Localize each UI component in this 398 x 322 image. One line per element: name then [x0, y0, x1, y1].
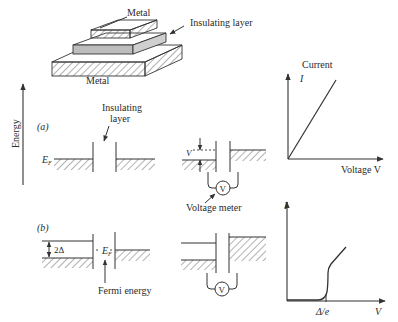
gap-label: 2Δ [54, 245, 65, 255]
voltmeter-symbol: V [220, 184, 227, 194]
gap-tick-label: Δ/e [315, 306, 330, 317]
panel-b-biased-bands: V [181, 233, 266, 296]
meter-wire-left [208, 172, 216, 188]
energy-axis: Energy [10, 84, 23, 185]
top-metal-label: Metal [127, 7, 151, 18]
fermi-label-a: EF [41, 154, 52, 166]
panel-b-equilibrium-bands: 2Δ EF Fermi energy [42, 232, 151, 296]
panel-b: (b) 2Δ EF Fermi energy [37, 222, 266, 296]
left-metal-filled-states [54, 159, 93, 170]
tunnel-junction-diagram: Metal Insulating layer Metal Energy (a) … [0, 0, 398, 322]
insulator-pointer-arrow [170, 26, 184, 34]
bias-voltage-label: V [186, 148, 193, 158]
normal-metal-biased-states [229, 237, 266, 261]
bottom-metal-label: Metal [86, 75, 110, 86]
left-metal-biased-states [182, 160, 216, 170]
insulating-layer-label: Insulating layer [190, 17, 253, 28]
meter-wire-right [230, 172, 238, 188]
current-axis-label: I [299, 73, 304, 84]
voltage-axis-label: Voltage V [341, 164, 382, 175]
insulator-arrow [104, 126, 109, 141]
panel-a-tag: (a) [37, 121, 49, 133]
current-axis-word: Current [302, 59, 333, 70]
iv-chart-superconducting: I Δ/e V [283, 200, 385, 317]
tunneling-iv-curve [287, 247, 346, 300]
superconductor-filled-states [42, 258, 93, 268]
panel-a-biased-bands: V V Voltage meter [182, 138, 266, 213]
junction-sketch: Metal Insulating layer Metal [52, 7, 253, 86]
voltmeter-symbol-b: V [219, 285, 226, 295]
right-metal-biased-states [230, 150, 266, 161]
voltage-axis-label-b: V [375, 306, 383, 317]
panel-b-tag: (b) [37, 222, 49, 234]
normal-metal-filled-states [115, 250, 150, 261]
insulator-label-line1: Insulating [102, 102, 142, 113]
ohmic-iv-line [288, 80, 336, 159]
fermi-label-b: EF [101, 245, 112, 257]
energy-axis-label: Energy [10, 119, 21, 148]
iv-chart-normal: Current I Voltage V [288, 59, 383, 175]
fermi-energy-label: Fermi energy [98, 285, 151, 296]
voltage-meter-label: Voltage meter [186, 202, 242, 213]
panel-a: (a) Insulating layer EF V [37, 102, 266, 213]
insulator-label-line2: layer [110, 113, 131, 124]
panel-a-equilibrium-bands: Insulating layer EF [41, 102, 155, 172]
right-metal-filled-states [116, 159, 155, 170]
